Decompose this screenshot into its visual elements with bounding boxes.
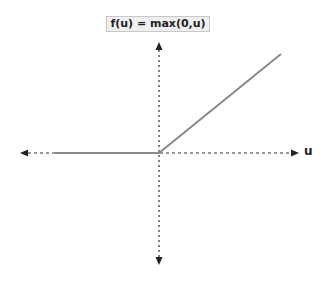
- y-axis-up-arrow-icon: [156, 42, 163, 50]
- x-axis-right-arrow-icon: [291, 150, 299, 157]
- relu-plot: [0, 0, 326, 284]
- x-axis-left-arrow-icon: [20, 150, 28, 157]
- x-axis-label: u: [304, 144, 313, 158]
- relu-curve: [55, 54, 281, 153]
- y-axis-down-arrow-icon: [156, 257, 163, 265]
